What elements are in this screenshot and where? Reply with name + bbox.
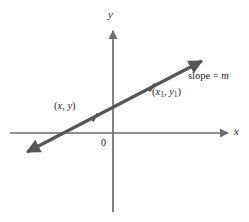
slope-line-figure: y x 0 (x, y) (x1, y1) slope = m	[0, 0, 249, 222]
slope-word: slope =	[188, 70, 221, 81]
slope-symbol-m: m	[221, 70, 229, 81]
x-axis-label: x	[234, 126, 239, 137]
subscript-x: 1	[160, 90, 164, 99]
slope-annotation: slope = m	[188, 71, 229, 82]
figure-canvas	[0, 0, 249, 222]
subscript-y: 1	[174, 90, 178, 99]
point-label-xy: (x, y)	[54, 101, 76, 112]
paren-close: )	[178, 86, 182, 97]
origin-label: 0	[101, 138, 106, 148]
y-axis-label: y	[108, 9, 113, 20]
paren-close: )	[72, 100, 76, 111]
point-label-x1y1: (x1, y1)	[152, 87, 181, 98]
